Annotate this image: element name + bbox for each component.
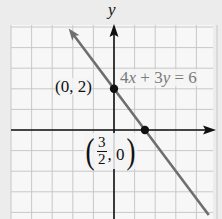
eq-coef-1: 4 [120, 68, 129, 87]
plot-area [11, 25, 213, 219]
eq-coef-2: 3 [154, 68, 163, 87]
fraction-denominator: 2 [98, 152, 106, 168]
fraction-numerator: 3 [97, 135, 107, 152]
open-paren: ( [86, 133, 95, 169]
line-graph-figure: y 4x + 3y = 6 (0, 2) ( 3 2 , 0 ) [0, 0, 222, 219]
fraction-three-halves: 3 2 [97, 135, 107, 168]
x-intercept-label: ( 3 2 , 0 ) [84, 133, 137, 169]
eq-var-x: x [129, 68, 137, 87]
equation-label: 4x + 3y = 6 [119, 69, 198, 86]
y-intercept-point [110, 85, 118, 93]
eq-rhs: = 6 [170, 68, 197, 87]
y-intercept-label: (0, 2) [55, 78, 92, 95]
eq-plus: + [136, 68, 154, 87]
y-axis-label: y [108, 1, 116, 18]
close-paren: ) [126, 133, 135, 169]
coordinate-plane [0, 0, 222, 219]
x-intercept-point [141, 126, 149, 134]
point2-rest: , 0 [108, 146, 125, 163]
